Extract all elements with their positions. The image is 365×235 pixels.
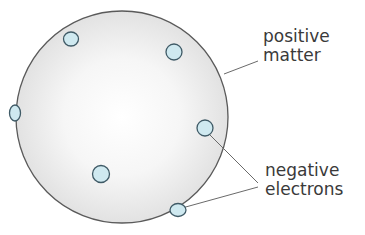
electron-icon <box>93 166 110 183</box>
negative-electrons-label-line1: negative <box>265 161 343 180</box>
negative-electrons-label-line2: electrons <box>265 180 343 199</box>
electron-icon <box>10 105 21 121</box>
diagram-stage: positive matter negative electrons <box>0 0 365 235</box>
electron-icon <box>64 32 79 46</box>
positive-matter-label-line2: matter <box>263 46 330 65</box>
positive-matter-label: positive matter <box>263 27 330 65</box>
electron-icon <box>166 44 182 60</box>
electron-icon <box>170 204 186 217</box>
positive-matter-label-line1: positive <box>263 27 330 46</box>
positive-matter-sphere <box>16 11 228 223</box>
positive-matter-leader-line <box>224 61 258 74</box>
negative-electrons-label: negative electrons <box>265 161 343 199</box>
electron-icon <box>197 120 213 136</box>
